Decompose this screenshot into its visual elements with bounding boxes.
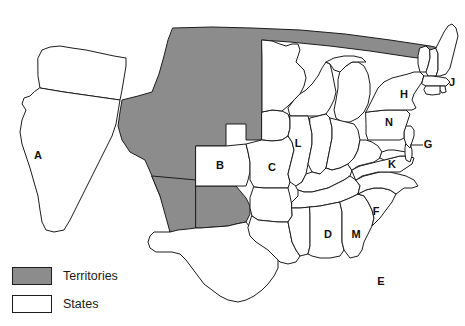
map-label-l: L <box>295 137 302 149</box>
territory-new-mexico[interactable] <box>152 176 196 232</box>
us-territories-map-figure: A B C D E F G H J K L M N Territories St… <box>0 0 465 326</box>
map-label-d: D <box>324 228 332 240</box>
map-label-k: K <box>388 158 396 170</box>
map-label-f: F <box>373 205 380 217</box>
map-label-n: N <box>385 116 393 128</box>
legend-label-territories: Territories <box>63 269 118 283</box>
map-label-h: H <box>400 88 408 100</box>
legend-item-territories[interactable]: Territories <box>12 264 132 288</box>
map-label-a: A <box>34 149 42 161</box>
map-label-g: G <box>424 138 433 150</box>
state-massachusetts[interactable] <box>422 76 450 86</box>
state-connecticut[interactable] <box>424 86 440 95</box>
state-arkansas[interactable] <box>250 187 292 222</box>
state-new-york[interactable] <box>366 72 424 112</box>
map-legend: Territories States <box>12 264 132 320</box>
map-label-c: C <box>268 161 276 173</box>
state-rhode-island[interactable] <box>440 86 446 93</box>
legend-swatch-states-icon <box>12 295 52 313</box>
map-label-m: M <box>351 228 360 240</box>
territory-oklahoma[interactable] <box>196 186 250 228</box>
legend-item-states[interactable]: States <box>12 292 132 316</box>
legend-swatch-territories-icon <box>12 267 52 285</box>
map-label-j: J <box>449 76 455 88</box>
state-maine[interactable] <box>436 24 458 76</box>
map-label-e: E <box>377 275 384 287</box>
map-label-b: B <box>216 159 224 171</box>
state-iowa[interactable] <box>262 110 290 141</box>
legend-label-states: States <box>63 297 98 311</box>
